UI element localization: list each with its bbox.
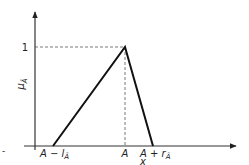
x-tick-left: A − lÃ bbox=[39, 148, 69, 161]
x-axis-label: x bbox=[139, 156, 146, 165]
stray-mark: - bbox=[2, 146, 5, 156]
membership-triangle bbox=[53, 47, 153, 146]
y-axis-label: μÃ bbox=[15, 78, 29, 90]
y-tick-label: 1 bbox=[22, 42, 28, 53]
x-tick-center: A bbox=[121, 148, 129, 159]
membership-diagram: 1 μÃ A − lÃ A A + rÃ x - bbox=[0, 0, 249, 165]
